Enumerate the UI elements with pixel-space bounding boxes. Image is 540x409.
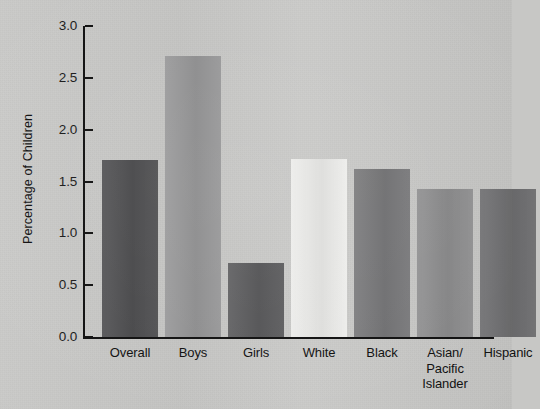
y-axis-tick-label: 0.0 (28, 329, 77, 345)
x-axis-line (83, 337, 494, 339)
bar (354, 169, 410, 337)
y-axis-tick-label: 2.0 (28, 122, 77, 138)
y-axis-tick-label: 0.5 (28, 277, 77, 293)
x-axis-category-label-line: Islander (395, 376, 495, 392)
y-axis-tick-label-text: 0.5 (28, 277, 77, 292)
x-axis-category-label-line: Pacific (395, 361, 495, 377)
bar (165, 56, 221, 337)
y-axis-line (83, 26, 85, 339)
y-axis-tick-label-text: 1.5 (28, 174, 77, 189)
x-axis-category-label: Hispanic (458, 345, 540, 361)
bar (291, 159, 347, 337)
x-axis-category-label-line: Hispanic (458, 345, 540, 361)
y-axis-tick-label: 1.0 (28, 225, 77, 241)
y-axis-tick-label: 2.5 (28, 70, 77, 86)
y-axis-tick-label-text: 1.0 (28, 225, 77, 240)
bar (228, 263, 284, 337)
y-axis-tick (85, 181, 93, 183)
y-axis-tick (85, 25, 93, 27)
y-axis-tick-label-text: 2.5 (28, 70, 77, 85)
y-axis-tick (85, 232, 93, 234)
y-axis-tick-label-text: 2.0 (28, 122, 77, 137)
y-axis-tick (85, 77, 93, 79)
y-axis-tick-label: 1.5 (28, 174, 77, 190)
bar (102, 160, 158, 337)
y-axis-tick (85, 284, 93, 286)
y-axis-tick (85, 129, 93, 131)
y-axis-tick-label-text: 3.0 (28, 18, 77, 33)
bar (417, 189, 473, 337)
y-axis-tick-label: 3.0 (28, 18, 77, 34)
y-axis-tick-label-text: 0.0 (28, 329, 77, 344)
bar (480, 189, 536, 337)
y-axis-tick (85, 336, 93, 338)
